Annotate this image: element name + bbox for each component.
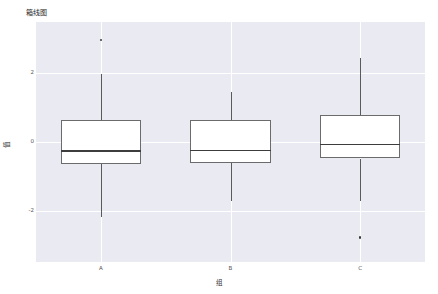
chart-title: 箱线图: [26, 7, 48, 17]
x-tick-label: C: [347, 265, 373, 271]
y-tick-label: 2: [12, 69, 34, 75]
x-axis-ticks: ABC: [36, 262, 425, 276]
y-axis-label: 值: [1, 141, 11, 148]
y-tick-label: 0: [12, 138, 34, 144]
x-tick-label: B: [218, 265, 244, 271]
plot-area: [36, 22, 425, 262]
whisker-lower: [360, 159, 361, 202]
y-tick-label: -2: [12, 207, 34, 213]
boxplot-box: [36, 22, 425, 262]
chart-figure: 箱线图 20-2 ABC 值 组: [0, 0, 438, 294]
median-line: [320, 144, 400, 145]
y-axis-ticks: 20-2: [8, 22, 34, 262]
outlier-point: [359, 236, 362, 239]
x-tick-label: A: [88, 265, 114, 271]
whisker-upper: [360, 58, 361, 115]
x-axis-label: 组: [0, 277, 438, 287]
box-rectangle: [320, 115, 400, 159]
